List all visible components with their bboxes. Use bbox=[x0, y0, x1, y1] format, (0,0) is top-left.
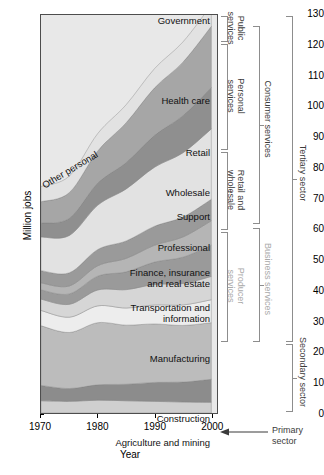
x-tick-mark bbox=[212, 414, 213, 418]
bracket-tertiary-sector-label: Tertiary sector bbox=[298, 125, 308, 221]
x-axis-title: Year bbox=[40, 449, 220, 460]
bracket-secondary-sector bbox=[286, 344, 293, 412]
bracket-retail-wholesale-label: Retail and wholesale bbox=[226, 159, 246, 221]
x-tick-label: 1980 bbox=[77, 421, 117, 432]
y-tick-label: 130 bbox=[294, 9, 324, 19]
y-tick-label: 100 bbox=[294, 101, 324, 111]
bracket-secondary-sector-label: Secondary sector bbox=[298, 324, 308, 420]
bracket-business-services-label: Business services bbox=[263, 229, 273, 329]
bracket-personal-services-label: Personal services bbox=[226, 66, 246, 126]
x-tick-mark bbox=[155, 414, 156, 418]
bracket-public-services-label: Public services bbox=[226, 8, 246, 48]
stacked-area-svg bbox=[41, 15, 217, 413]
band-label-agriculture: Agriculture and mining bbox=[115, 438, 210, 449]
bracket-consumer-services-label: Consumer services bbox=[263, 69, 273, 169]
y-tick-label: 120 bbox=[294, 40, 324, 50]
y-axis-title: Million jobs bbox=[22, 161, 33, 271]
bracket-tertiary-sector-stub bbox=[293, 179, 297, 180]
bracket-producer-services-label: Producer services bbox=[226, 255, 246, 317]
y-tick-label: 50 bbox=[294, 255, 324, 265]
y-tick-label: 110 bbox=[294, 71, 324, 81]
x-tick-mark bbox=[40, 414, 41, 418]
y-tick-label: 60 bbox=[294, 224, 324, 234]
bracket-consumer-services bbox=[253, 26, 260, 224]
bracket-business-services bbox=[253, 228, 260, 342]
x-tick-mark bbox=[97, 414, 98, 418]
y-tick-label: 40 bbox=[294, 286, 324, 296]
x-tick-label: 1990 bbox=[135, 421, 175, 432]
primary-sector-label: Primary sector bbox=[272, 425, 303, 446]
bracket-tertiary-sector bbox=[286, 16, 293, 342]
chart-figure: Million jobs 010203040506070809010011012… bbox=[0, 0, 324, 475]
bracket-secondary-sector-stub bbox=[293, 378, 297, 379]
plot-area bbox=[40, 14, 218, 414]
x-tick-label: 1970 bbox=[20, 421, 60, 432]
primary-sector-arrow-icon bbox=[220, 426, 270, 438]
